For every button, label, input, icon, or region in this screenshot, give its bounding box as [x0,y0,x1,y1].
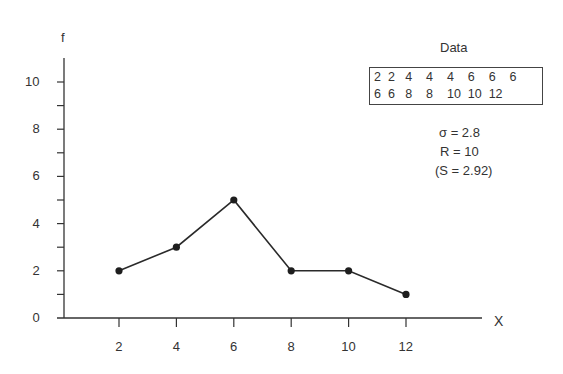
x-tick-label: 4 [173,339,180,354]
data-points [115,196,409,298]
x-tick-label: 2 [115,339,122,354]
x-tick-label: 6 [230,339,237,354]
data-point [115,267,122,274]
sigma-stat: σ = 2.8 [439,125,480,140]
data-row-2: 6 6 8 8 10 10 12 [374,87,503,101]
x-tick-label: 8 [288,339,295,354]
y-ticks [57,82,64,294]
y-tick-label: 10 [25,74,39,89]
range-stat: R = 10 [440,144,479,159]
frequency-line [119,200,406,294]
x-tick-label: 12 [399,339,413,354]
y-tick-label: 4 [33,216,40,231]
data-point [345,267,352,274]
y-tick-label: 0 [33,310,40,325]
x-axis-label: X [494,313,503,329]
data-point [173,244,180,251]
sample-sd-stat: (S = 2.92) [435,163,492,178]
y-tick-label: 6 [33,168,40,183]
frequency-polygon-chart [0,0,563,374]
data-point [288,267,295,274]
data-box-title: Data [440,40,467,55]
data-box: 2 2 4 4 4 6 6 6 6 6 8 8 10 10 12 [369,67,543,105]
x-tick-label: 10 [341,339,355,354]
y-axis-label: f [61,30,65,45]
y-tick-label: 8 [33,121,40,136]
y-tick-label: 2 [33,263,40,278]
x-ticks [119,318,406,327]
data-point [402,291,409,298]
data-row-1: 2 2 4 4 4 6 6 6 [374,70,516,84]
data-point [230,196,237,203]
